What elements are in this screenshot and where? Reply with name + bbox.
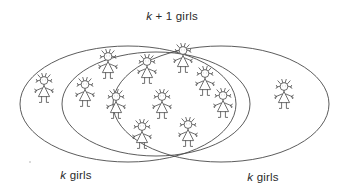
girl-figure-intersection-3	[107, 89, 126, 118]
union-set-label: k + 1 girls	[146, 10, 198, 22]
girl-figure-intersection-1	[76, 77, 95, 106]
right-set-label: k girls	[247, 171, 278, 183]
girl-figure-intersection-5	[153, 89, 172, 118]
girl-figure-right-only-1	[275, 79, 294, 108]
union-set-label-suffix: + 1 girls	[152, 10, 198, 22]
girl-figure-intersection-9	[196, 66, 215, 95]
figure-group	[35, 43, 294, 148]
left-set-ellipse	[20, 46, 236, 162]
scan-speck	[29, 161, 30, 162]
venn-diagram-figure: k + 1 girls k girls k girls	[0, 0, 345, 194]
right-set-label-suffix: girls	[253, 171, 279, 183]
left-set-label: k girls	[60, 169, 91, 181]
girl-figure-intersection-2	[99, 49, 118, 78]
girl-figure-intersection-6	[174, 43, 193, 72]
ellipse-group	[20, 46, 329, 162]
diagram-canvas: k + 1 girls k girls k girls	[0, 0, 345, 194]
left-set-label-suffix: girls	[66, 169, 92, 181]
girl-figure-intersection-8	[179, 117, 198, 146]
girl-figure-left-only-1	[35, 73, 54, 102]
girl-figure-intersection-10	[214, 88, 233, 117]
